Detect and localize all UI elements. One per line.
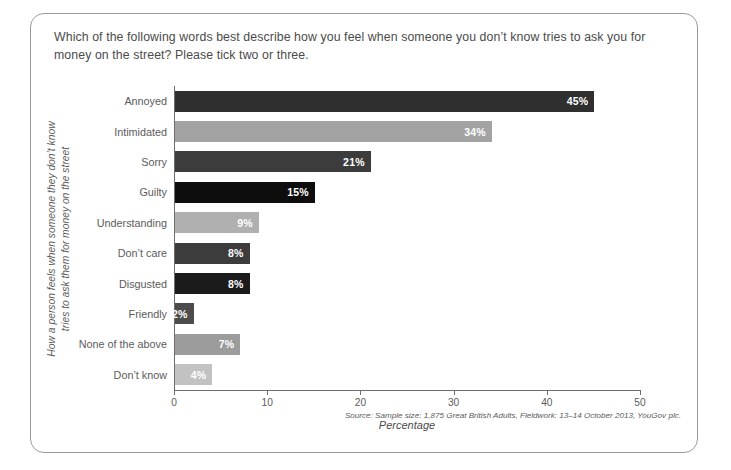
x-tick-3 (454, 390, 455, 395)
bar-3[interactable]: 15% (175, 182, 315, 203)
category-label-9: Don’t know (114, 369, 167, 381)
bar-value-label-1: 34% (464, 126, 492, 138)
x-tick-label-5: 50 (634, 397, 645, 408)
bar-2[interactable]: 21% (175, 151, 371, 172)
bar-value-label-5: 8% (228, 247, 250, 259)
category-label-6: Disgusted (119, 278, 167, 290)
category-label-3: Guilty (139, 186, 167, 198)
x-tick-2 (360, 390, 361, 395)
bar-value-label-3: 15% (287, 186, 315, 198)
category-label-7: Friendly (129, 308, 167, 320)
y-axis-title-line-2: tries to ask them for money on the stree… (59, 94, 73, 384)
x-tick-label-1: 10 (262, 397, 273, 408)
bar-value-label-8: 7% (219, 338, 241, 350)
question-text: Which of the following words best descri… (54, 28, 664, 64)
y-axis-title-line-1: How a person feels when someone they don… (45, 94, 59, 384)
bar-value-label-2: 21% (343, 156, 371, 168)
x-tick-label-4: 40 (541, 397, 552, 408)
category-label-0: Annoyed (124, 95, 167, 107)
bar-row: Understanding9% (175, 208, 641, 238)
bar-9[interactable]: 4% (175, 364, 212, 385)
bar-row: Disgusted8% (175, 268, 641, 298)
bar-1[interactable]: 34% (175, 121, 492, 142)
bar-value-label-7: 2% (172, 308, 194, 320)
x-axis-line (174, 390, 640, 391)
bar-row: Annoyed45% (175, 86, 641, 116)
plot-area: Annoyed45%Intimidated34%Sorry21%Guilty15… (174, 86, 640, 390)
x-tick-label-0: 0 (171, 397, 177, 408)
bar-row: Sorry21% (175, 147, 641, 177)
bar-value-label-6: 8% (228, 278, 250, 290)
chart-card: Which of the following words best descri… (30, 13, 698, 453)
category-label-5: Don’t care (118, 247, 167, 259)
bar-value-label-0: 45% (567, 95, 595, 107)
x-tick-label-2: 20 (355, 397, 366, 408)
bar-row: Don’t care8% (175, 238, 641, 268)
bar-row: Don’t know4% (175, 360, 641, 390)
bar-5[interactable]: 8% (175, 243, 250, 264)
x-tick-label-3: 30 (448, 397, 459, 408)
category-label-2: Sorry (141, 156, 167, 168)
bar-value-label-4: 9% (237, 217, 259, 229)
y-axis-title: How a person feels when someone they don… (45, 94, 79, 384)
category-label-1: Intimidated (114, 126, 167, 138)
x-tick-1 (267, 390, 268, 395)
bar-row: Guilty15% (175, 177, 641, 207)
bar-value-label-9: 4% (191, 369, 213, 381)
bar-6[interactable]: 8% (175, 273, 250, 294)
x-tick-0 (174, 390, 175, 395)
x-tick-4 (547, 390, 548, 395)
bar-7[interactable]: 2% (175, 303, 194, 324)
bar-row: Friendly2% (175, 299, 641, 329)
x-tick-5 (640, 390, 641, 395)
x-axis-title: Percentage (174, 419, 640, 431)
source-note: Source: Sample size: 1,875 Great British… (345, 411, 681, 420)
category-label-8: None of the above (79, 338, 167, 350)
bar-8[interactable]: 7% (175, 334, 240, 355)
category-label-4: Understanding (97, 217, 167, 229)
bar-row: Intimidated34% (175, 116, 641, 146)
bar-0[interactable]: 45% (175, 91, 594, 112)
bar-4[interactable]: 9% (175, 212, 259, 233)
bar-row: None of the above7% (175, 329, 641, 359)
